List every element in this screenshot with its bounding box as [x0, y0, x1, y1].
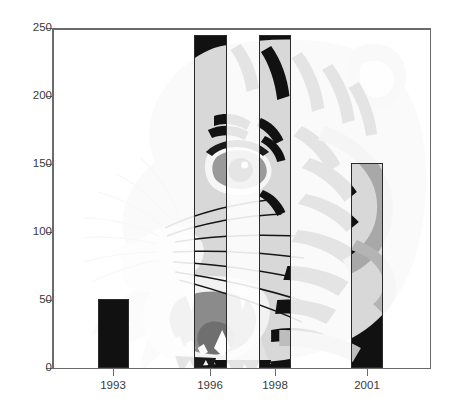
- y-tick-label-200: 200: [12, 90, 52, 102]
- bar-1996-outline: [194, 35, 227, 368]
- plot-frame-top: [53, 28, 431, 30]
- plot-area: [53, 28, 430, 368]
- x-tick-2001: [367, 369, 368, 376]
- x-tick-label-1998: 1998: [245, 380, 305, 392]
- x-tick-label-1993: 1993: [83, 380, 143, 392]
- y-tick-label-100: 100: [12, 226, 52, 238]
- y-tick-label-150: 150: [12, 158, 52, 170]
- bar-1998-outline: [259, 35, 291, 368]
- x-tick-label-1996: 1996: [180, 380, 240, 392]
- bar-1993-outline: [98, 299, 129, 368]
- x-tick-label-2001: 2001: [337, 380, 397, 392]
- x-tick-1996: [210, 369, 211, 376]
- y-tick-label-250: 250: [12, 22, 52, 34]
- y-tick-label-50: 50: [12, 294, 52, 306]
- x-axis-line: [53, 368, 431, 370]
- chart-canvas: 250 200 150 100 50 0 1993 1996 1998 2001: [0, 0, 450, 413]
- y-tick-label-0: 0: [12, 362, 52, 374]
- x-tick-1998: [275, 369, 276, 376]
- x-tick-1993: [113, 369, 114, 376]
- y-axis-line: [52, 28, 54, 369]
- bar-2001-outline: [351, 163, 383, 368]
- plot-frame-right: [430, 28, 432, 369]
